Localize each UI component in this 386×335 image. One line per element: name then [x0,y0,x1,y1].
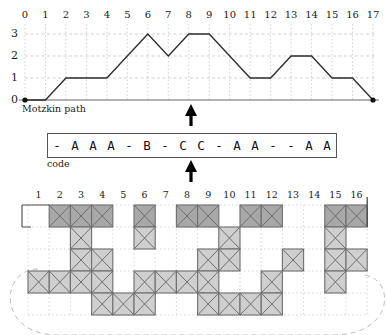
tableau-cell [49,205,70,227]
code-symbol: - [156,134,174,157]
motzkin-x-tick: 9 [199,10,219,20]
tableau-cell [198,293,219,315]
motzkin-x-tick: 2 [56,10,76,20]
tableau-cells [28,205,367,315]
code-symbol: A [300,134,318,157]
tableau-cell [176,205,197,227]
code-symbol: C [192,134,210,157]
tableau-cell [113,293,134,315]
motzkin-x-tick: 8 [179,10,199,20]
tableau-cell [261,293,282,315]
tableau-cell [70,249,91,271]
motzkin-path-line [25,34,373,100]
tableau-cell [325,205,346,227]
motzkin-y-tick: 1 [6,72,18,83]
tableau-cell [134,271,155,293]
tableau-cell [219,249,240,271]
up-arrow-to-path [184,104,198,126]
tableau-grid [0,185,386,335]
tableau-cell [219,227,240,249]
tableau-cell [261,271,282,293]
figure-root: 01234567891011121314151617 0123 Motzkin … [0,0,386,335]
tableau-cell [134,205,155,227]
tableau-cell [240,205,261,227]
tableau-cell [49,271,70,293]
tableau-cell [198,205,219,227]
tableau-cell [134,227,155,249]
motzkin-end-point [370,97,375,102]
tableau-cell [70,205,91,227]
cylindric-diagram-panel: 12345678910111213141516 [0,185,386,335]
code-symbol: A [318,134,336,157]
motzkin-x-tick: 11 [240,10,260,20]
tableau-top-left-step-notch [22,205,49,227]
motzkin-x-tick: 4 [97,10,117,20]
code-symbol: A [228,134,246,157]
motzkin-path-panel: 01234567891011121314151617 0123 Motzkin … [0,0,386,120]
tableau-cell [92,205,113,227]
code-caption: code [47,159,70,169]
code-symbol: - [210,134,228,157]
code-symbol: A [102,134,120,157]
tableau-cell [92,249,113,271]
tableau-cell [134,293,155,315]
tableau-cell [346,205,367,227]
motzkin-x-tick: 10 [220,10,240,20]
code-symbol: B [138,134,156,157]
code-symbol: A [246,134,264,157]
motzkin-y-tick: 2 [6,50,18,61]
tableau-cell [325,249,346,271]
code-box: -AAA-B-CC-AA--AA [47,133,337,158]
motzkin-x-tick: 16 [343,10,363,20]
tableau-cell [325,227,346,249]
code-symbol: - [48,134,66,157]
up-arrow-to-code [184,160,198,182]
code-symbol: C [174,134,192,157]
tableau-cell [219,293,240,315]
motzkin-y-tick: 0 [6,94,18,105]
motzkin-x-tick: 7 [158,10,178,20]
motzkin-x-tick: 17 [363,10,383,20]
motzkin-start-point [22,97,27,102]
motzkin-y-tick: 3 [6,28,18,39]
tableau-cell [28,271,49,293]
motzkin-gridlines [25,24,376,100]
tableau-cell [92,271,113,293]
tableau-cell [198,271,219,293]
motzkin-x-tick: 14 [302,10,322,20]
motzkin-x-tick: 12 [261,10,281,20]
motzkin-x-tick: 5 [117,10,137,20]
tableau-cell [198,249,219,271]
tableau-cell [92,293,113,315]
tableau-cell [70,227,91,249]
motzkin-x-tick: 15 [322,10,342,20]
tableau-cell [176,271,197,293]
motzkin-x-tick: 0 [15,10,35,20]
tableau-cell [155,271,176,293]
tableau-cell [325,271,346,293]
code-symbol: - [282,134,300,157]
tableau-cell [346,249,367,271]
motzkin-x-tick: 6 [138,10,158,20]
tableau-cell [240,293,261,315]
code-symbol: A [84,134,102,157]
motzkin-x-tick: 1 [35,10,55,20]
tableau-cell [261,205,282,227]
code-symbol: A [66,134,84,157]
tableau-cell [70,271,91,293]
motzkin-x-tick: 3 [76,10,96,20]
motzkin-x-tick: 13 [281,10,301,20]
code-symbol: - [264,134,282,157]
tableau-cell [282,249,303,271]
motzkin-path-caption: Motzkin path [22,104,86,114]
code-symbol: - [120,134,138,157]
